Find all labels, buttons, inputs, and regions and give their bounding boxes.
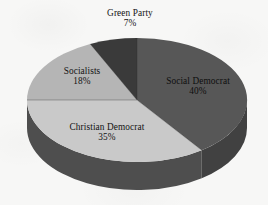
slice-label-christian-democrat: Christian Democrat 35%: [42, 122, 172, 143]
slice-label-socialists-value: 18%: [32, 76, 132, 86]
slice-label-christian-democrat-name: Christian Democrat: [42, 122, 172, 132]
slice-label-social-democrat: Social Democrat 40%: [150, 76, 246, 97]
pie-chart-figure: Green Party 7% Social Democrat 40% Socia…: [0, 0, 268, 205]
pie-chart-graphic: [0, 0, 268, 205]
slice-label-green-party-value: 7%: [70, 18, 190, 28]
slice-label-green-party-name: Green Party: [70, 8, 190, 18]
slice-label-socialists: Socialists 18%: [32, 66, 132, 87]
slice-label-christian-democrat-value: 35%: [42, 132, 172, 142]
slice-label-social-democrat-value: 40%: [150, 86, 246, 96]
slice-label-green-party: Green Party 7%: [70, 8, 190, 29]
slice-label-social-democrat-name: Social Democrat: [150, 76, 246, 86]
slice-label-socialists-name: Socialists: [32, 66, 132, 76]
